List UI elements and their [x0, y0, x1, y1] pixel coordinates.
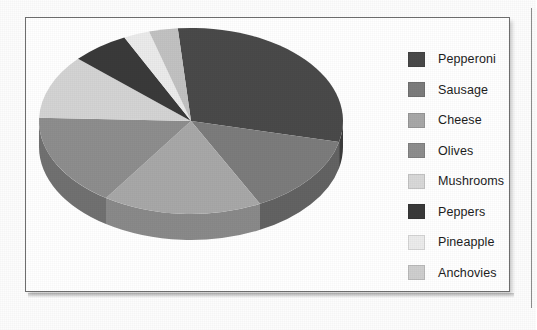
legend-item-cheese[interactable]: Cheese — [408, 105, 528, 136]
pie-slice-tops[interactable]: PepperoniSausageCheeseOlivesMushroomsPep… — [39, 28, 343, 214]
legend-swatch-sausage — [408, 82, 425, 97]
legend-label-anchovies: Anchovies — [438, 267, 497, 280]
legend-item-olives[interactable]: Olives — [408, 136, 528, 167]
legend-label-mushrooms: Mushrooms — [438, 175, 504, 188]
legend-swatch-cheese — [408, 113, 425, 128]
chart-legend: Pepperoni Sausage Cheese Olives Mushroom… — [408, 44, 528, 288]
legend-label-pineapple: Pineapple — [438, 236, 495, 249]
pie-chart-svg[interactable]: PepperoniSausageCheeseOlivesMushroomsPep… — [26, 18, 381, 291]
panel-drop-shadow — [28, 293, 514, 298]
legend-item-mushrooms[interactable]: Mushrooms — [408, 166, 528, 197]
legend-label-olives: Olives — [438, 145, 473, 158]
legend-swatch-olives — [408, 143, 425, 158]
adjacent-page-edge — [531, 8, 537, 308]
pie-chart-area[interactable]: PepperoniSausageCheeseOlivesMushroomsPep… — [26, 18, 381, 291]
legend-label-cheese: Cheese — [438, 114, 482, 127]
legend-label-peppers: Peppers — [438, 206, 485, 219]
legend-label-pepperoni: Pepperoni — [438, 53, 496, 66]
legend-swatch-anchovies — [408, 265, 425, 280]
legend-item-pineapple[interactable]: Pineapple — [408, 227, 528, 258]
legend-item-peppers[interactable]: Peppers — [408, 197, 528, 228]
legend-item-anchovies[interactable]: Anchovies — [408, 258, 528, 289]
legend-label-sausage: Sausage — [438, 84, 488, 97]
legend-swatch-pepperoni — [408, 52, 425, 67]
legend-swatch-peppers — [408, 204, 425, 219]
legend-swatch-mushrooms — [408, 174, 425, 189]
legend-item-sausage[interactable]: Sausage — [408, 75, 528, 106]
pie-chart-figure-panel: PepperoniSausageCheeseOlivesMushroomsPep… — [25, 17, 510, 292]
legend-item-pepperoni[interactable]: Pepperoni — [408, 44, 528, 75]
legend-swatch-pineapple — [408, 235, 425, 250]
